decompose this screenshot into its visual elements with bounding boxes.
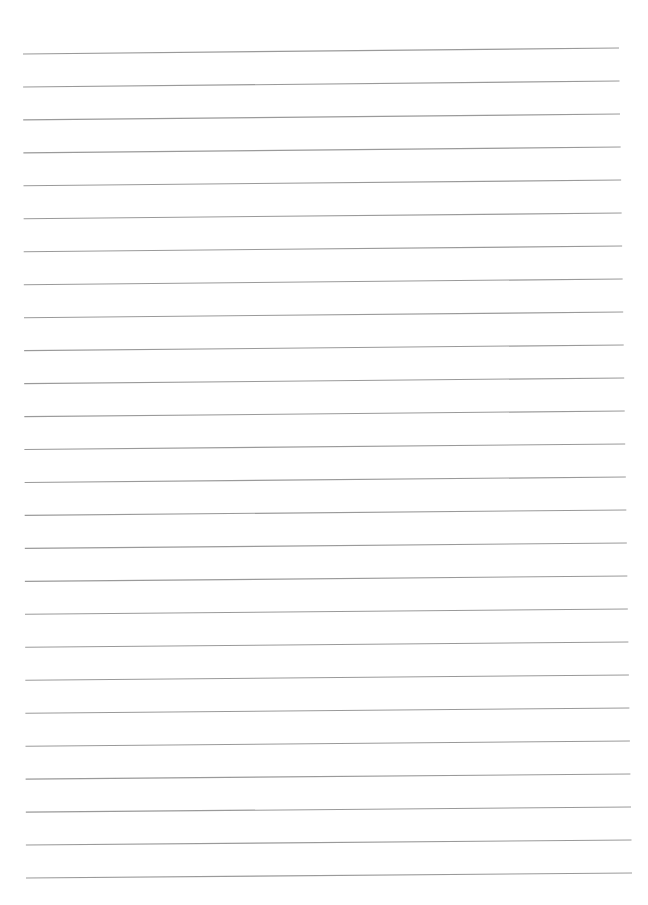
ruled-line <box>25 609 628 614</box>
ruled-line <box>26 741 630 746</box>
ruled-line <box>24 213 622 219</box>
ruled-line <box>26 774 631 779</box>
ruled-line <box>23 48 619 54</box>
ruled-line <box>23 147 620 153</box>
ruled-line <box>24 180 622 186</box>
ruled-line <box>25 642 628 647</box>
ruled-line <box>24 279 623 285</box>
ruled-line <box>25 510 627 515</box>
ruled-line <box>24 378 624 384</box>
ruled-line <box>23 81 619 87</box>
ruled-line <box>24 444 625 450</box>
ruled-line <box>25 543 627 548</box>
ruled-line <box>24 411 624 417</box>
ruled-line <box>25 576 627 581</box>
ruled-line <box>25 477 626 483</box>
ruled-line <box>26 873 632 878</box>
ruled-lines <box>0 0 648 905</box>
ruled-line <box>23 114 620 120</box>
ruled-line <box>24 246 622 252</box>
ruled-line <box>26 807 631 812</box>
ruled-line <box>25 708 629 713</box>
ruled-line <box>24 345 624 351</box>
ruled-line <box>26 840 632 845</box>
ruled-line <box>25 675 629 680</box>
ruled-line <box>24 312 623 318</box>
lined-paper-page <box>0 0 648 905</box>
